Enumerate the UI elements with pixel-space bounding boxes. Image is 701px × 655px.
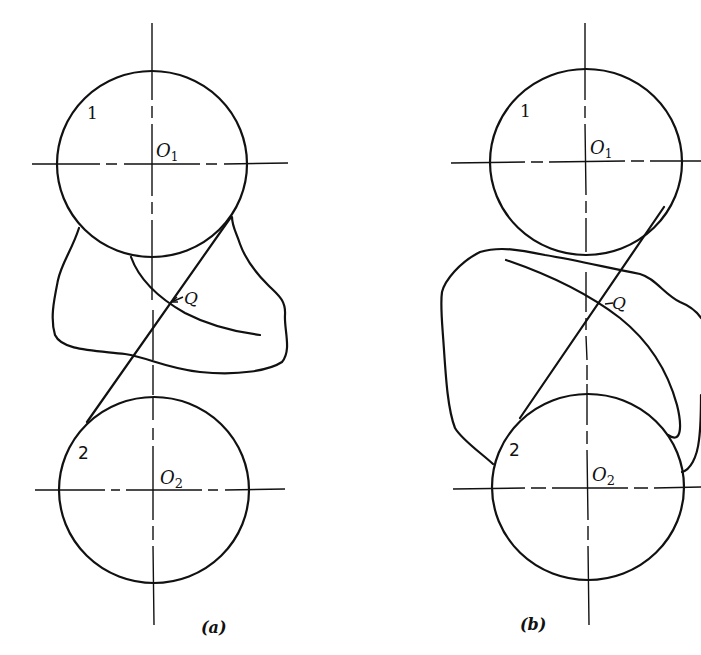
panel-a-region-outline [53,217,287,373]
panel-b-label-circle-1: 1 [520,101,531,121]
panel-b-label-center-2: O2 [592,464,615,488]
panel-b: 1 2 O1 O2 Q (b) [441,23,701,634]
panel-b-label-circle-2: 2 [509,440,520,460]
panel-a-horizontal-centerline-2 [35,489,285,490]
panel-b-region-outline-right [682,395,701,472]
panel-b-region-outline [441,249,701,464]
panel-b-horizontal-centerline-2 [453,487,701,489]
panel-a-label-circle-1: 1 [87,103,98,123]
panel-b-horizontal-centerline-1 [451,161,701,163]
panel-a-horizontal-centerline-1 [32,163,288,164]
panel-a-label-circle-2: 2 [78,443,89,463]
panel-a-vertical-centerline [152,23,154,625]
panel-b-vertical-centerline [585,23,589,625]
panel-a-label-point-q: Q [184,288,198,308]
diagram-canvas: 1 2 O1 O2 Q (a) 1 2 O1 O2 Q ( [0,0,701,655]
panel-a-label-center-1: O1 [156,140,178,164]
panel-b-caption: (b) [520,615,546,634]
panel-b-tangent-line [520,207,664,418]
panel-a: 1 2 O1 O2 Q (a) [32,23,288,637]
panel-b-label-center-1: O1 [590,137,612,161]
panel-a-caption: (a) [201,618,227,637]
panel-a-label-center-2: O2 [160,467,183,491]
panel-b-label-point-q: Q [612,293,626,313]
